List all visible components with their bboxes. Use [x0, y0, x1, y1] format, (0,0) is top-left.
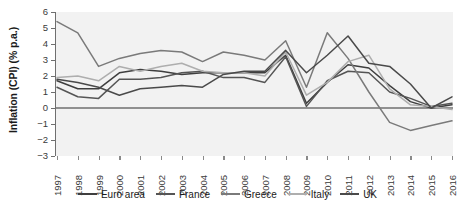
x-tick-mark	[244, 156, 245, 160]
series-line-france	[57, 57, 452, 107]
y-tick-mark	[51, 44, 55, 45]
x-tick-mark	[223, 156, 224, 160]
legend-label: Euro area	[101, 189, 145, 200]
x-tick-mark	[182, 156, 183, 160]
x-tick-mark	[410, 156, 411, 160]
y-tick-mark	[51, 124, 55, 125]
x-tick-mark	[140, 156, 141, 160]
legend-swatch-icon	[78, 193, 97, 195]
x-tick-mark	[57, 156, 58, 160]
series-line-uk	[57, 36, 452, 108]
x-tick-mark	[348, 156, 349, 160]
y-tick-mark	[51, 28, 55, 29]
legend-label: UK	[363, 189, 377, 200]
x-tick-mark	[369, 156, 370, 160]
x-tick-mark	[286, 156, 287, 160]
legend-item-greece[interactable]: Greece	[221, 189, 277, 200]
x-tick-mark	[161, 156, 162, 160]
x-tick-mark	[327, 156, 328, 160]
y-tick-mark	[51, 76, 55, 77]
y-axis-title-text: Inflation (CPI) (% p.a.)	[7, 27, 19, 133]
y-tick-label: −2	[37, 135, 48, 145]
y-tick-mark	[51, 92, 55, 93]
y-axis-title: Inflation (CPI) (% p.a.)	[0, 0, 26, 160]
y-tick-mark	[51, 108, 55, 109]
x-tick-mark	[306, 156, 307, 160]
legend-label: Greece	[244, 189, 277, 200]
plot-wrapper: 6543210−1−2−3	[26, 4, 455, 156]
y-axis-ticks: 6543210−1−2−3	[26, 4, 52, 156]
legend-label: France	[179, 189, 210, 200]
y-tick-label: −1	[37, 119, 48, 129]
y-tick-label: 4	[43, 39, 48, 49]
y-tick-label: 5	[43, 23, 48, 33]
x-tick-mark	[390, 156, 391, 160]
x-tick-mark	[203, 156, 204, 160]
y-tick-mark	[51, 12, 55, 13]
series-line-italy	[57, 52, 452, 110]
legend-swatch-icon	[156, 193, 175, 195]
y-tick-label: 6	[43, 7, 48, 17]
x-tick-mark	[78, 156, 79, 160]
legend-label: Italy	[311, 189, 329, 200]
y-tick-label: 3	[43, 55, 48, 65]
x-tick-mark	[99, 156, 100, 160]
chart-legend: Euro areaFranceGreeceItalyUK	[0, 185, 455, 203]
plot-area	[56, 12, 453, 156]
x-tick-mark	[452, 156, 453, 160]
legend-item-euro-area[interactable]: Euro area	[78, 189, 145, 200]
legend-item-uk[interactable]: UK	[340, 189, 377, 200]
y-tick-mark	[51, 60, 55, 61]
y-tick-mark	[51, 140, 55, 141]
y-tick-label: 2	[43, 71, 48, 81]
legend-item-france[interactable]: France	[156, 189, 210, 200]
x-tick-mark	[265, 156, 266, 160]
x-tick-mark	[119, 156, 120, 160]
legend-swatch-icon	[340, 193, 359, 195]
y-tick-label: 0	[43, 103, 48, 113]
legend-swatch-icon	[288, 193, 307, 195]
series-canvas	[56, 12, 453, 156]
y-tick-label: 1	[43, 87, 48, 97]
x-tick-mark	[431, 156, 432, 160]
x-tick-label: 2016	[432, 163, 461, 174]
legend-item-italy[interactable]: Italy	[288, 189, 329, 200]
legend-swatch-icon	[221, 193, 240, 195]
